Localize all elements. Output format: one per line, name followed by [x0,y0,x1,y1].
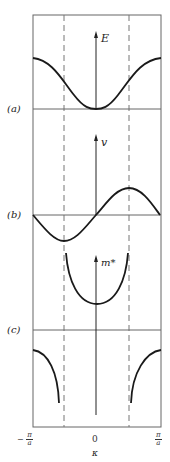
tick-zero: 0 [92,435,98,444]
energy-curve [33,58,161,109]
effective-mass-right-curve [131,350,161,403]
arrow-up-icon [94,255,98,262]
band-diagram [0,0,170,462]
tick-neg-pi-over-a: − π a [17,432,33,447]
effective-mass-axis-label: m* [101,257,115,268]
arrow-up-icon [94,134,98,141]
panel-a-label: (a) [7,103,21,114]
arrow-up-icon [94,31,98,38]
panel-b-label: (b) [7,209,21,220]
panel-c-label: (c) [7,324,20,335]
energy-axis-label: E [101,32,109,45]
velocity-axis-label: v [101,136,107,149]
x-axis-label: κ [92,448,98,458]
tick-pi-over-a: π a [155,432,162,447]
effective-mass-left-curve [33,350,59,403]
